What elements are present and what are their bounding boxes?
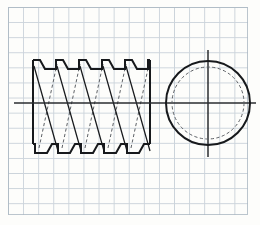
spring-top-profile	[33, 60, 150, 69]
spring-bottom-profile	[33, 144, 150, 153]
spring-visible-coil-edges	[34, 66, 150, 151]
helical-spring-end-view	[160, 50, 256, 157]
spring-hidden-coil-edges	[39, 64, 149, 148]
helical-spring-front-view	[14, 60, 160, 153]
sketch-sheet	[0, 0, 260, 225]
sketch-artwork	[0, 0, 260, 225]
